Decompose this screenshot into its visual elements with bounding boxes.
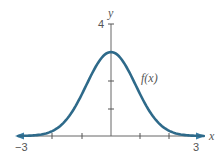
y-tick-label-4: 4 — [98, 18, 104, 30]
curve-label: f(x) — [141, 71, 158, 85]
x-axis-label: x — [208, 129, 215, 143]
x-tick-label-3: 3 — [193, 141, 199, 153]
bell-curve-chart: y 4 x −3 3 f(x) — [0, 0, 222, 162]
y-axis-label: y — [107, 6, 114, 20]
x-tick-label-neg3: −3 — [15, 141, 28, 153]
